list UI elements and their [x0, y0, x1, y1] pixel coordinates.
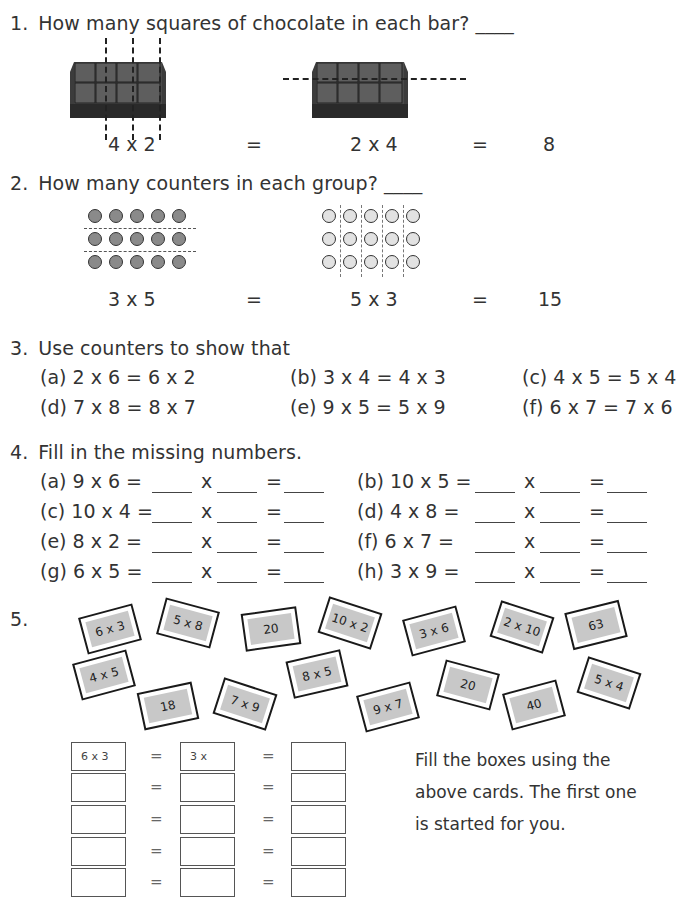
instruction-line: is started for you. — [415, 808, 637, 840]
q4-item: (f) 6 x 7 = — [357, 530, 454, 552]
answer-box[interactable] — [71, 773, 126, 802]
number-card[interactable]: 10 x 2 — [317, 596, 382, 649]
number-card[interactable]: 20 — [436, 659, 500, 710]
instruction-line: above cards. The first one — [415, 776, 637, 808]
answer-box[interactable] — [180, 773, 235, 802]
answer-blank[interactable] — [152, 552, 192, 553]
counter-icon — [109, 255, 123, 269]
answer-blank[interactable] — [607, 552, 647, 553]
card-label: 8 x 5 — [293, 656, 342, 691]
answer-box[interactable]: 3 x — [180, 742, 235, 771]
number-card[interactable]: 7 x 9 — [212, 677, 277, 730]
answer-blank[interactable] — [475, 522, 515, 523]
answer-box[interactable] — [291, 805, 346, 834]
answer-blank[interactable] — [475, 552, 515, 553]
number-card[interactable]: 2 x 10 — [489, 600, 554, 653]
counter-icon — [343, 209, 357, 223]
dashed-divider — [361, 205, 362, 277]
number-card[interactable]: 5 x 4 — [576, 656, 641, 709]
counter-icon — [151, 209, 165, 223]
dashed-divider — [132, 38, 134, 140]
equals-sign: = — [589, 530, 605, 552]
answer-blank[interactable] — [152, 492, 192, 493]
counter-icon — [109, 232, 123, 246]
answer-blank[interactable] — [217, 492, 257, 493]
answer-blank[interactable] — [152, 582, 192, 583]
question-number: 4. — [10, 441, 32, 463]
equals-sign: = — [246, 288, 262, 310]
counter-icon — [364, 232, 378, 246]
number-card[interactable]: 18 — [137, 682, 200, 731]
answer-blank[interactable] — [284, 492, 324, 493]
answer-box[interactable] — [71, 805, 126, 834]
q4-item-label: (b) 10 x 5 = — [357, 470, 471, 492]
question-text: How many squares of chocolate in each ba… — [38, 12, 514, 34]
card-label: 5 x 8 — [163, 605, 212, 642]
answer-blank[interactable] — [540, 552, 580, 553]
answer-box[interactable] — [180, 805, 235, 834]
answer-blank[interactable] — [152, 522, 192, 523]
expression: 4 x 2 — [108, 133, 156, 155]
number-card[interactable]: 4 x 5 — [72, 649, 136, 700]
answer-blank[interactable] — [475, 492, 515, 493]
answer-blank[interactable] — [540, 492, 580, 493]
answer-blank[interactable] — [607, 582, 647, 583]
q4-item-label: (f) 6 x 7 = — [357, 530, 454, 552]
q4-item: (e) 8 x 2 = — [40, 530, 142, 552]
q3-item-f: (f) 6 x 7 = 7 x 6 — [522, 396, 673, 418]
instructions: Fill the boxes using the above cards. Th… — [415, 744, 637, 840]
answer-blank[interactable] — [475, 582, 515, 583]
question-number: 3. — [10, 337, 32, 359]
answer-box[interactable] — [291, 868, 346, 897]
card-label: 3 x 6 — [409, 613, 458, 650]
answer-blank[interactable] — [607, 522, 647, 523]
q4-item: (c) 10 x 4 = — [40, 500, 153, 522]
answer-box[interactable] — [291, 773, 346, 802]
number-card[interactable]: 9 x 7 — [356, 681, 420, 732]
equals-sign: = — [262, 873, 275, 891]
answer-blank[interactable] — [217, 582, 257, 583]
dashed-divider — [403, 205, 404, 277]
q4-item-label: (e) 8 x 2 = — [40, 530, 142, 552]
number-card[interactable]: 63 — [564, 600, 628, 650]
dashed-divider — [84, 251, 196, 252]
answer-blank[interactable] — [284, 552, 324, 553]
counter-icon — [172, 255, 186, 269]
q4-item-label: (d) 4 x 8 = — [357, 500, 459, 522]
counter-icon — [406, 232, 420, 246]
q4-item-label: (a) 9 x 6 = — [40, 470, 142, 492]
answer-blank[interactable] — [284, 522, 324, 523]
counter-icon — [343, 255, 357, 269]
counter-icon — [343, 232, 357, 246]
answer-box[interactable] — [291, 837, 346, 866]
number-card[interactable]: 40 — [502, 679, 566, 730]
answer-blank[interactable] — [540, 582, 580, 583]
counter-icon — [130, 209, 144, 223]
q4-item-label: (h) 3 x 9 = — [357, 560, 459, 582]
answer-blank[interactable] — [540, 522, 580, 523]
answer-blank[interactable] — [284, 582, 324, 583]
answer-blank[interactable] — [607, 492, 647, 493]
answer-box[interactable] — [71, 868, 126, 897]
counter-icon — [151, 232, 165, 246]
q3-item-c: (c) 4 x 5 = 5 x 4 — [522, 366, 676, 388]
answer-blank[interactable] — [217, 552, 257, 553]
counter-icon — [364, 255, 378, 269]
dashed-divider — [283, 78, 466, 80]
counter-icon — [172, 232, 186, 246]
answer-blank[interactable] — [217, 522, 257, 523]
number-card[interactable]: 3 x 6 — [402, 605, 466, 656]
answer-box[interactable] — [180, 868, 235, 897]
number-card[interactable]: 6 x 3 — [78, 603, 142, 654]
counter-icon — [322, 255, 336, 269]
dashed-divider — [340, 205, 341, 277]
counter-icon — [151, 255, 165, 269]
question-1: 1. How many squares of chocolate in each… — [10, 12, 514, 34]
number-card[interactable]: 20 — [241, 606, 302, 651]
answer-box[interactable] — [180, 837, 235, 866]
number-card[interactable]: 8 x 5 — [285, 649, 348, 699]
answer-box[interactable] — [291, 742, 346, 771]
number-card[interactable]: 5 x 8 — [156, 597, 220, 648]
answer-box[interactable] — [71, 837, 126, 866]
answer-box[interactable]: 6 x 3 — [71, 742, 126, 771]
